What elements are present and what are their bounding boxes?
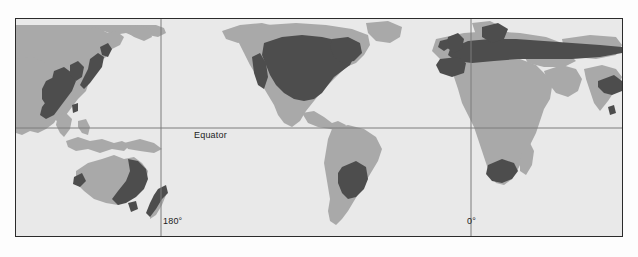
meridian-0-label: 0° bbox=[467, 217, 476, 226]
map-frame: Equator 180° 0° bbox=[15, 18, 623, 237]
equator-label: Equator bbox=[194, 131, 227, 140]
world-map-figure: Equator 180° 0° bbox=[0, 0, 638, 257]
meridian-180-label: 180° bbox=[163, 217, 182, 226]
world-map-graphic bbox=[16, 19, 622, 236]
